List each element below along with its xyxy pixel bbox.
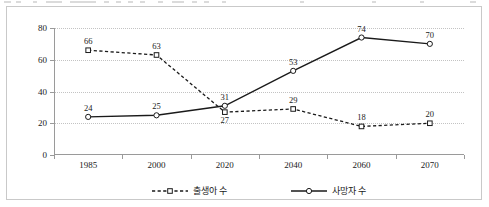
y-axis-tick-label: 40 <box>38 87 47 96</box>
series-lines <box>54 28 464 155</box>
x-axis-tick <box>122 155 123 159</box>
y-axis-tick-label: 80 <box>38 24 47 33</box>
data-label: 27 <box>221 116 230 125</box>
data-label: 66 <box>84 37 93 46</box>
cropped-glyph-fragment <box>4 1 11 3</box>
x-axis-tick <box>191 155 192 159</box>
y-axis-tick-label: 60 <box>38 55 47 64</box>
cropped-glyph-fragment <box>46 1 62 3</box>
plot-area: 020406080 198520002020204020602070 66632… <box>54 28 464 155</box>
data-label: 29 <box>289 95 298 104</box>
legend-item-2[interactable]: 사망자 수 <box>291 186 366 196</box>
cropped-glyph-fragment <box>128 1 133 3</box>
data-label: 63 <box>152 41 161 50</box>
series-1-marker <box>428 121 433 126</box>
cropped-glyph-fragment <box>33 1 37 3</box>
x-axis-tick-label: 2070 <box>421 161 439 170</box>
x-axis-tick-label: 2020 <box>216 161 234 170</box>
data-label: 25 <box>152 102 161 111</box>
cropped-glyph-fragment <box>470 1 476 3</box>
series-1-marker <box>154 53 159 58</box>
cropped-glyph-fragment <box>204 1 209 3</box>
cropped-glyph-fragment <box>372 1 376 3</box>
plot-inner: 020406080 198520002020204020602070 66632… <box>54 28 464 155</box>
series-1-marker <box>223 110 228 115</box>
x-axis-tick <box>327 155 328 159</box>
cropped-glyph-fragment <box>172 1 184 3</box>
x-axis-tick <box>259 155 260 159</box>
data-label: 20 <box>426 110 435 119</box>
series-line-2 <box>88 38 430 117</box>
series-1-marker <box>291 107 296 112</box>
data-label: 74 <box>357 24 366 33</box>
cropped-glyph-fragment <box>158 1 163 3</box>
x-axis-tick-label: 2000 <box>148 161 166 170</box>
data-label: 24 <box>84 103 93 112</box>
data-label: 31 <box>221 92 230 101</box>
data-label: 53 <box>289 57 298 66</box>
x-axis-tick <box>396 155 397 159</box>
cropped-glyph-fragment <box>70 1 96 3</box>
series-2-marker <box>86 114 91 119</box>
cropped-glyph-fragment <box>104 1 109 3</box>
x-axis-tick <box>464 155 465 159</box>
x-axis-tick-label: 2040 <box>284 161 302 170</box>
cropped-glyph-fragment <box>116 1 121 3</box>
cropped-glyph-fragment <box>140 1 145 3</box>
series-1-marker <box>86 48 91 53</box>
cropped-glyph-fragment <box>420 1 424 3</box>
series-2-marker <box>427 41 432 46</box>
legend-label: 사망자 수 <box>332 187 366 196</box>
x-axis-tick <box>54 155 55 159</box>
cropped-glyph-fragment <box>300 1 304 3</box>
x-axis-tick-label: 1985 <box>79 161 97 170</box>
series-1-marker <box>359 124 364 129</box>
series-2-marker <box>154 113 159 118</box>
legend-item-1[interactable]: 출생아 수 <box>152 186 227 196</box>
chart-screenshot: 020406080 198520002020204020602070 66632… <box>0 0 489 207</box>
legend-label: 출생아 수 <box>193 187 227 196</box>
data-label: 18 <box>357 113 366 122</box>
cropped-glyph-fragment <box>222 1 226 3</box>
series-2-marker <box>359 35 364 40</box>
cropped-text-sliver <box>0 0 489 5</box>
series-2-marker <box>222 103 227 108</box>
chart-frame: 020406080 198520002020204020602070 66632… <box>6 6 482 200</box>
x-axis-tick-label: 2060 <box>353 161 371 170</box>
legend-dashed-square-icon <box>152 186 188 196</box>
data-label: 70 <box>426 30 435 39</box>
series-2-marker <box>291 68 296 73</box>
legend-solid-circle-icon <box>291 186 327 196</box>
chart-legend: 출생아 수사망자 수 <box>54 183 464 199</box>
y-axis-tick-label: 0 <box>43 151 48 160</box>
cropped-glyph-fragment <box>192 1 197 3</box>
y-axis-tick-label: 20 <box>38 119 47 128</box>
cropped-glyph-fragment <box>16 1 21 3</box>
